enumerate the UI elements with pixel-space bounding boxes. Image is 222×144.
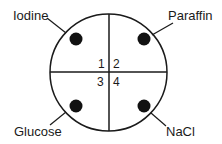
nacl-leader	[151, 113, 166, 126]
label-iodine: Iodine	[13, 8, 48, 23]
label-glucose: Glucose	[14, 124, 62, 139]
iodine-leader	[47, 18, 66, 33]
well-4-dot	[138, 100, 151, 113]
well-1-dot	[70, 33, 83, 46]
well-2-dot	[138, 33, 151, 46]
paraffin-leader	[152, 23, 173, 35]
quadrant-number-1: 1	[98, 57, 105, 71]
quadrant-number-3: 3	[97, 75, 104, 89]
quadrant-number-2: 2	[113, 57, 120, 71]
label-nacl: NaCl	[166, 124, 195, 139]
well-3-dot	[70, 100, 83, 113]
quadrant-number-4: 4	[113, 75, 120, 89]
petri-dish-diagram: Iodine Paraffin Glucose NaCl 1 2 3 4	[0, 0, 222, 144]
label-paraffin: Paraffin	[168, 8, 213, 23]
